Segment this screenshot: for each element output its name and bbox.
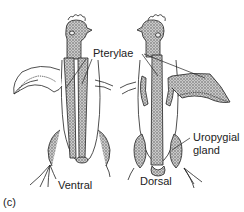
panel-label: (c) xyxy=(3,196,16,208)
bird-illustrations xyxy=(0,0,244,212)
feather-tract-diagram: Pterylae Ventral Dorsal Uropygial gland … xyxy=(0,0,244,212)
dorsal-label: Dorsal xyxy=(140,175,172,187)
uropygial-label-line1: Uropygial xyxy=(193,131,239,143)
pterylae-label: Pterylae xyxy=(93,47,133,59)
ventral-bird xyxy=(14,15,113,187)
ventral-label: Ventral xyxy=(58,179,92,191)
uropygial-label-line2: gland xyxy=(193,144,220,156)
dorsal-bird xyxy=(120,15,230,188)
